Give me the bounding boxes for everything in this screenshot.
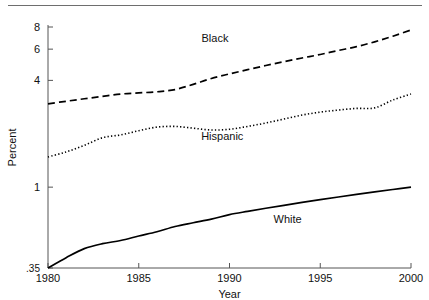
y-axis-tick-label: 1 (34, 181, 40, 193)
series-label-black: Black (202, 32, 229, 44)
y-axis-title: Percent (6, 129, 18, 167)
x-axis-tick-label: 1985 (127, 272, 151, 284)
top-divider-rule (8, 5, 422, 6)
y-axis-tick-label: 8 (34, 21, 40, 33)
series-label-white: White (274, 213, 302, 225)
x-axis-tick-label: 1980 (36, 272, 60, 284)
y-axis-tick-label: 4 (34, 74, 40, 86)
x-axis-tick-label: 2000 (399, 272, 423, 284)
series-line-white (48, 187, 411, 268)
x-axis-tick-label: 1990 (217, 272, 241, 284)
chart-figure: .35146819801985199019952000YearPercentBl… (0, 0, 429, 300)
y-axis-tick-label: 6 (34, 43, 40, 55)
line-chart: .35146819801985199019952000YearPercentBl… (0, 0, 429, 300)
x-axis-title: Year (218, 288, 241, 300)
series-line-black (48, 30, 411, 104)
series-line-hispanic (48, 94, 411, 157)
x-axis-tick-label: 1995 (308, 272, 332, 284)
series-label-hispanic: Hispanic (201, 130, 244, 142)
